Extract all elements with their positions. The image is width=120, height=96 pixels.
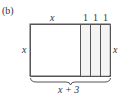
- area-model-diagram: [0, 0, 120, 96]
- right-x-label: x: [113, 45, 117, 55]
- left-x-label: x: [22, 45, 26, 55]
- strip-label-2: 1: [93, 13, 98, 23]
- strip-label-1: 1: [83, 13, 88, 23]
- top-x-label: x: [50, 13, 54, 23]
- bottom-label: x + 3: [58, 85, 79, 95]
- strips-fill: [81, 25, 110, 76]
- part-label: (b): [2, 6, 14, 16]
- strip-label-3: 1: [103, 13, 108, 23]
